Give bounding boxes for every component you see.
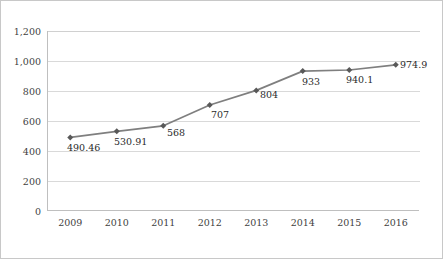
data-point-marker (114, 128, 120, 134)
data-point-marker (253, 87, 259, 93)
x-axis-tick-label: 2015 (326, 217, 372, 228)
data-point-label: 530.91 (114, 136, 147, 147)
x-axis-tick-label: 2010 (94, 217, 140, 228)
data-point-label: 568 (167, 127, 185, 138)
x-axis-tick-label: 2014 (280, 217, 326, 228)
data-point-label: 940.1 (346, 74, 373, 85)
data-point-marker (393, 62, 399, 68)
x-axis-tick-label: 2016 (373, 217, 419, 228)
data-point-marker (67, 134, 73, 140)
data-point-marker (346, 67, 352, 73)
x-axis-tick-label: 2012 (187, 217, 233, 228)
data-point-marker (207, 102, 213, 108)
data-point-label: 490.46 (67, 142, 100, 153)
x-axis-tick-label: 2009 (47, 217, 93, 228)
x-axis-tick-label: 2013 (233, 217, 279, 228)
data-point-label: 707 (211, 109, 229, 120)
x-axis-tick-label: 2011 (140, 217, 186, 228)
data-point-label: 933 (302, 76, 320, 87)
data-point-marker (300, 68, 306, 74)
chart-container: 1,200 1,000 800 600 400 200 0 (0, 0, 443, 259)
data-point-label: 804 (260, 89, 278, 100)
data-point-label: 974.9 (400, 59, 427, 70)
data-point-marker (160, 123, 166, 129)
